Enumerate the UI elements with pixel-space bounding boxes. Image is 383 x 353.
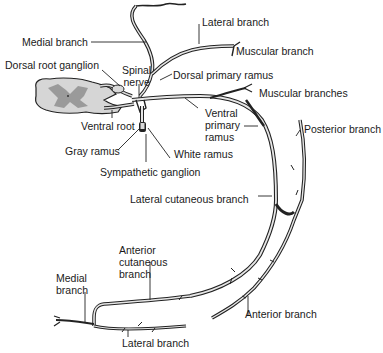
label-lateral-branch-top: Lateral branch — [202, 16, 269, 28]
label-gray-ramus: Gray ramus — [65, 145, 120, 157]
label-medial-branch-bottom: Medial branch — [56, 272, 88, 296]
label-anterior-cutaneous-branch: Anterior cutaneous branch — [119, 244, 167, 280]
label-posterior-branch: Posterior branch — [304, 123, 381, 135]
label-medial-branch-top: Medial branch — [22, 36, 88, 48]
label-spinal-nerve: Spinal nerve — [122, 64, 151, 88]
label-anterior-branch: Anterior branch — [245, 308, 317, 320]
label-ventral-primary-ramus: Ventral primary ramus — [205, 107, 240, 143]
label-lateral-branch-bottom: Lateral branch — [122, 337, 189, 349]
label-ventral-root: Ventral root — [81, 120, 135, 132]
label-white-ramus: White ramus — [174, 148, 233, 160]
label-dorsal-root-ganglion: Dorsal root ganglion — [5, 59, 99, 71]
label-sympathetic-ganglion: Sympathetic ganglion — [100, 166, 200, 178]
label-dorsal-primary-ramus: Dorsal primary ramus — [173, 69, 273, 81]
sympathetic-chain — [136, 100, 146, 132]
label-muscular-branches: Muscular branches — [259, 87, 348, 99]
label-muscular-branch: Muscular branch — [236, 45, 314, 57]
spinal-nerve-diagram: Lateral branch Muscular branch Medial br… — [0, 0, 383, 353]
label-lateral-cutaneous-branch: Lateral cutaneous branch — [130, 193, 249, 205]
